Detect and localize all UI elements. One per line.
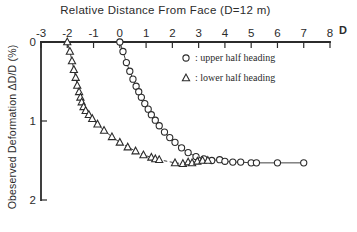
data-point-circle [230,159,236,165]
data-point-triangle [74,82,81,89]
data-point-circle [152,117,158,123]
data-point-circle [138,94,144,100]
x-axis-unit-label: D [339,24,347,36]
data-point-circle [274,160,280,166]
data-point-triangle [108,133,115,140]
data-point-circle [120,48,126,54]
y-tick-label: 0 [30,36,36,48]
data-point-circle [185,150,191,156]
axes-group [41,42,330,200]
y-tick-label: 1 [30,115,36,127]
legend-marker-circle [183,55,189,61]
data-point-circle [130,76,136,82]
x-tick-label: 1 [143,27,149,39]
data-point-triangle [72,74,79,81]
data-point-circle [178,145,184,151]
legend-label-triangle: : lower half heading [195,72,275,83]
x-tick-label: 6 [274,27,280,39]
y-tick-label: 2 [30,194,36,206]
x-tick-label: 4 [222,27,229,39]
x-tick-label: 3 [195,27,201,39]
x-tick-label: 5 [248,27,254,39]
data-point-circle [156,123,162,129]
x-tick-label: -3 [36,27,46,39]
data-point-circle [301,160,307,166]
data-point-circle [167,134,173,140]
legend-label-circle: : upper half heading [195,52,275,63]
data-point-triangle [70,66,77,73]
x-tick-label: 0 [117,27,123,39]
data-point-triangle [140,151,147,158]
data-point-circle [117,39,123,45]
data-point-circle [123,59,129,65]
data-point-triangle [132,147,139,154]
x-tick-label: -1 [88,27,98,39]
x-tick-label: 8 [327,27,333,39]
data-point-circle [161,129,167,135]
data-point-triangle [76,88,83,95]
data-point-circle [222,158,228,164]
y-axis-title: Obeserved Deformation ΔD/D (%) [6,45,18,210]
data-point-triangle [68,57,75,64]
data-point-circle [238,159,244,165]
x-tick-label: 7 [301,27,307,39]
legend [182,55,189,81]
x-axis-title: Relative Distance From Face (D=12 m) [60,4,271,16]
legend-marker-triangle [182,74,189,81]
data-point-circle [253,160,259,166]
data-point-triangle [124,143,131,150]
x-tick-label: 2 [169,27,175,39]
data-point-circle [172,139,178,145]
data-point-triangle [66,48,73,55]
data-point-circle [127,68,133,74]
chart-canvas: -3-2-1012345678012Relative Distance From… [0,0,357,232]
data-point-triangle [116,138,123,145]
deformation-chart: -3-2-1012345678012Relative Distance From… [0,0,357,232]
data-point-circle [148,112,154,118]
